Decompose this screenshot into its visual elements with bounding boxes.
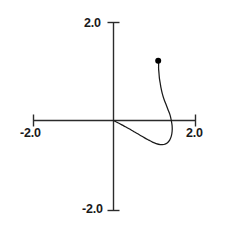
- plot-figure: 2.0 -2.0 -2.0 2.0: [0, 0, 227, 228]
- plot-canvas: [0, 0, 227, 228]
- x-axis-left-tick-label: -2.0: [20, 127, 41, 140]
- endpoint-marker-dot: [155, 58, 161, 64]
- y-axis-bottom-tick-label: -2.0: [82, 203, 103, 216]
- x-axis-right-tick-label: 2.0: [186, 127, 203, 140]
- y-axis-top-tick-label: 2.0: [84, 17, 101, 30]
- data-curve: [114, 61, 173, 145]
